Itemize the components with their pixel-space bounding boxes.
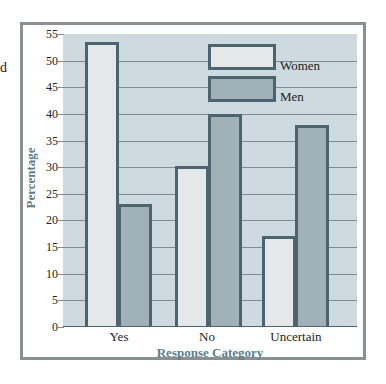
y-tick-label: 55 bbox=[28, 28, 58, 40]
y-tick-mark bbox=[58, 327, 64, 328]
bar-men-no bbox=[208, 114, 242, 327]
y-tick-mark bbox=[58, 61, 64, 62]
y-tick-mark bbox=[58, 247, 64, 248]
y-tick-label: 30 bbox=[28, 161, 58, 173]
y-tick-mark bbox=[58, 87, 64, 88]
y-tick-label: 20 bbox=[28, 214, 58, 226]
x-tick-label-yes: Yes bbox=[69, 329, 169, 345]
legend-swatch-women bbox=[208, 44, 276, 70]
y-tick-mark bbox=[58, 300, 64, 301]
legend-label-women: Women bbox=[280, 58, 320, 74]
legend-swatch-men bbox=[208, 76, 276, 102]
bar-women-no bbox=[175, 166, 209, 327]
bar-men-uncertain bbox=[295, 125, 329, 327]
legend-label-men: Men bbox=[280, 89, 304, 105]
bar-men-yes bbox=[118, 204, 152, 327]
bar-women-uncertain bbox=[262, 236, 296, 327]
y-tick-mark bbox=[58, 194, 64, 195]
y-tick-mark bbox=[58, 274, 64, 275]
y-tick-label: 50 bbox=[28, 55, 58, 67]
x-tick-label-uncertain: Uncertain bbox=[246, 329, 346, 345]
y-tick-label: 5 bbox=[28, 294, 58, 306]
cropped-edge-text: d bbox=[0, 60, 7, 76]
x-tick-label-no: No bbox=[157, 329, 257, 345]
y-tick-label: 25 bbox=[28, 188, 58, 200]
y-tick-label: 45 bbox=[28, 81, 58, 93]
y-tick-label: 10 bbox=[28, 268, 58, 280]
y-tick-mark bbox=[58, 220, 64, 221]
x-axis-baseline bbox=[63, 326, 357, 327]
x-axis-title: Response Category bbox=[63, 345, 357, 361]
y-tick-mark bbox=[58, 167, 64, 168]
y-tick-mark bbox=[58, 114, 64, 115]
y-tick-mark bbox=[58, 34, 64, 35]
y-tick-label: 0 bbox=[28, 321, 58, 333]
y-tick-mark bbox=[58, 141, 64, 142]
y-tick-label: 35 bbox=[28, 135, 58, 147]
y-tick-label: 40 bbox=[28, 108, 58, 120]
y-tick-label: 15 bbox=[28, 241, 58, 253]
bar-women-yes bbox=[85, 42, 119, 327]
